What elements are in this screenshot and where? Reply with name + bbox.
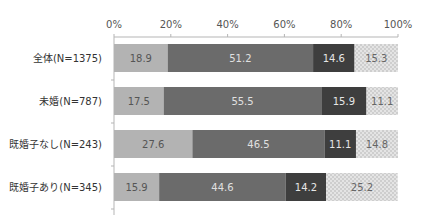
category-label: 全体(N=1375) [33,52,102,64]
x-tick-label: 60% [273,19,295,30]
data-label: 25.2 [351,182,373,193]
data-label: 15.9 [125,182,147,193]
data-label: 51.2 [229,53,251,64]
data-label: 15.3 [365,53,387,64]
labels-layer: 全体(N=1375)18.951.214.615.3未婚(N=787)17.55… [9,52,393,193]
data-label: 14.6 [323,53,345,64]
stacked-bar-chart: 0%20%40%60%80%100% 全体(N=1375)18.951.214.… [0,0,425,224]
x-tick-label: 0% [106,19,122,30]
data-label: 55.5 [231,96,253,107]
category-label: 既婚子あり(N=345) [9,181,102,193]
data-label: 18.9 [130,53,152,64]
bars-layer [114,44,398,201]
data-label: 14.8 [366,139,388,150]
data-label: 14.2 [295,182,317,193]
x-tick-label: 100% [384,19,413,30]
x-tick-label: 20% [160,19,182,30]
category-label: 未婚(N=787) [39,95,102,107]
data-label: 46.5 [247,139,269,150]
category-label: 既婚子なし(N=243) [9,138,102,150]
data-label: 27.6 [142,139,164,150]
data-label: 15.9 [333,96,355,107]
data-label: 11.1 [329,139,351,150]
x-tick-label: 40% [216,19,238,30]
data-label: 44.6 [211,182,233,193]
data-label: 17.5 [128,96,150,107]
x-tick-label: 80% [330,19,352,30]
data-label: 11.1 [371,96,393,107]
